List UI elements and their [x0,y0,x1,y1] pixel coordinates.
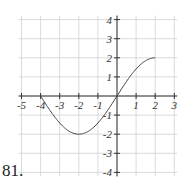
x-tick-label: 1 [133,99,139,111]
graph: -5-4-3-2-1123-4-3-2-11234 [0,0,184,184]
x-tick-label: 2 [152,99,158,111]
y-tick-label: 4 [107,14,113,26]
problem-number: 81. [2,161,23,181]
y-tick-label: -3 [103,147,113,159]
x-tick-label: 3 [171,99,178,111]
x-tick-label: -2 [74,99,84,111]
y-tick-label: 2 [107,52,113,64]
x-tick-label: -5 [17,99,27,111]
y-tick-label: -4 [103,166,113,178]
y-tick-label: 3 [106,33,113,45]
x-tick-label: -1 [93,99,102,111]
x-tick-label: -3 [55,99,65,111]
y-tick-label: -2 [103,128,113,140]
y-tick-label: 1 [107,71,113,83]
